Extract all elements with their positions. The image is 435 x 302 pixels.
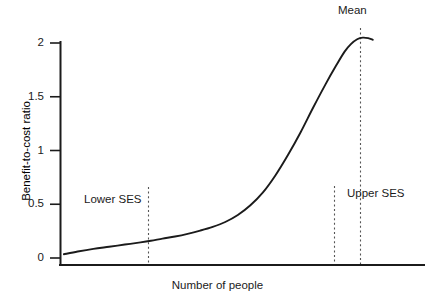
benefit-cost-curve <box>64 38 373 255</box>
y-axis-ticks <box>50 43 60 258</box>
mean-label: Mean <box>338 5 367 17</box>
y-axis-title-wrapper: Benefit-to-cost ratio <box>16 0 36 302</box>
chart-figure: 2 1.5 1 0.5 0 Mean Lower SES Upper SES N… <box>0 0 435 302</box>
x-axis-title: Number of people <box>0 280 435 292</box>
chart-plot-area <box>0 0 435 302</box>
upper-ses-label: Upper SES <box>347 188 405 200</box>
y-axis-title: Benefit-to-cost ratio <box>16 0 36 302</box>
lower-ses-label: Lower SES <box>84 194 142 206</box>
annotation-dashed-lines <box>149 28 361 264</box>
